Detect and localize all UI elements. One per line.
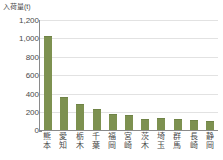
plot-area — [39, 20, 218, 131]
x-axis-label-char: 馬 — [173, 141, 181, 150]
y-tick-label-0: 0 — [3, 127, 39, 135]
bar-slot — [170, 20, 186, 130]
x-axis-label-char: 知 — [59, 141, 67, 150]
x-axis-label: 栃木 — [72, 132, 88, 160]
x-axis-label-char: 群 — [173, 132, 181, 141]
x-axis-label: 福岡 — [104, 132, 120, 160]
bar-slot — [137, 20, 153, 130]
x-axis-label-char: 木 — [76, 141, 84, 150]
x-axis-label-char: 玉 — [157, 141, 165, 150]
y-axis-title: 入荷量(t) — [3, 2, 31, 11]
x-axis-label: 静岡 — [202, 132, 218, 160]
x-axis-label-char: 愛 — [59, 132, 67, 141]
bar — [109, 114, 117, 130]
x-axis-label-char: 福 — [108, 132, 116, 141]
bar-slot — [105, 20, 121, 130]
x-axis-label-char: 茨 — [141, 132, 149, 141]
y-tick-label-200: 200 — [3, 109, 39, 117]
x-axis-label-char: 崎 — [190, 141, 198, 150]
y-tick-label-1000: 1,000 — [3, 35, 39, 43]
bar — [141, 119, 149, 130]
x-axis-label-char: 宮 — [124, 132, 132, 141]
x-axis-label: 群馬 — [169, 132, 185, 160]
x-axis-label: 熊本 — [39, 132, 55, 160]
bar — [125, 115, 133, 130]
bar — [174, 119, 182, 130]
bar — [60, 97, 68, 130]
bar — [190, 120, 198, 130]
bar-slot — [121, 20, 137, 130]
bar-chart: 入荷量(t) 1,200 1,000 800 600 400 200 0 熊本愛… — [0, 0, 223, 160]
bar — [206, 121, 214, 130]
x-axis-label-char: 静 — [206, 132, 214, 141]
bar — [76, 104, 84, 130]
x-axis-label-char: 崎 — [124, 141, 132, 150]
bar-slot — [202, 20, 218, 130]
x-axis-label-char: 栃 — [76, 132, 84, 141]
x-axis-label-char: 長 — [190, 132, 198, 141]
y-tick-label-600: 600 — [3, 72, 39, 80]
bar-slot — [153, 20, 169, 130]
x-axis-label: 千葉 — [88, 132, 104, 160]
x-axis-label-char: 岡 — [108, 141, 116, 150]
x-axis-label-char: 埼 — [157, 132, 165, 141]
x-axis-label-char: 熊 — [43, 132, 51, 141]
y-tick-label-800: 800 — [3, 54, 39, 62]
x-axis-label-char: 千 — [92, 132, 100, 141]
bar-series — [40, 20, 218, 130]
bar-slot — [56, 20, 72, 130]
x-axis-labels: 熊本愛知栃木千葉福岡宮崎茨木埼玉群馬長崎静岡 — [39, 132, 218, 160]
x-axis-label: 愛知 — [55, 132, 71, 160]
bar-slot — [40, 20, 56, 130]
x-axis-label-char: 岡 — [206, 141, 214, 150]
x-axis-label: 埼玉 — [153, 132, 169, 160]
x-axis-label: 宮崎 — [120, 132, 136, 160]
x-axis-label-char: 葉 — [92, 141, 100, 150]
x-axis-label-char: 木 — [141, 141, 149, 150]
y-tick-label-1200: 1,200 — [3, 17, 39, 25]
bar-slot — [89, 20, 105, 130]
bar-slot — [72, 20, 88, 130]
y-tick-label-400: 400 — [3, 91, 39, 99]
bar — [157, 118, 165, 130]
bar-slot — [186, 20, 202, 130]
x-axis-label-char: 本 — [43, 141, 51, 150]
bar — [93, 109, 101, 130]
bar — [44, 36, 52, 130]
x-axis-label: 茨木 — [137, 132, 153, 160]
x-axis-label: 長崎 — [185, 132, 201, 160]
